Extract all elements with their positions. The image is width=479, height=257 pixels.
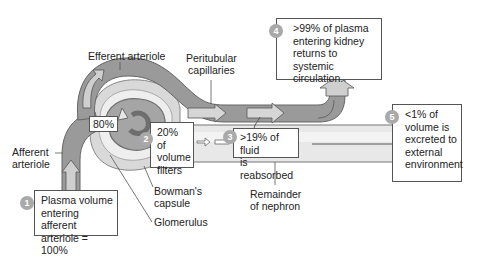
step-1-box: Plasma volume entering afferent arteriol…	[34, 190, 118, 236]
step-line: filters	[157, 164, 189, 177]
label-line: Remainder	[250, 188, 301, 200]
step-2-badge: 2	[139, 132, 153, 146]
step-line: is reabsorbed	[240, 156, 294, 181]
label-line: capsule	[154, 197, 202, 209]
step-line: 20% of	[157, 126, 189, 151]
step-line: arteriole = 100%	[41, 232, 113, 257]
step-4-box: >99% of plasma entering kidney returns t…	[276, 18, 382, 80]
label-80-percent: 80%	[89, 116, 118, 132]
step-line: >19% of fluid	[240, 131, 294, 156]
step-2-box: 20% of volume filters	[150, 122, 194, 168]
step-line: returns to systemic	[293, 47, 377, 72]
label-efferent-arteriole: Efferent arteriole	[88, 50, 165, 62]
step-line: volume	[157, 151, 189, 164]
step-3-badge: 3	[223, 130, 237, 144]
label-line: capillaries	[186, 64, 237, 76]
step-5-box: <1% of volume is excreted to external en…	[392, 104, 462, 182]
step-1-badge: 1	[20, 196, 34, 210]
step-line: environment	[405, 158, 457, 171]
label-line: Bowman's	[154, 185, 202, 197]
label-bowmans-capsule: Bowman's capsule	[154, 185, 202, 209]
step-line: entering kidney	[293, 35, 377, 48]
label-peritubular-capillaries: Peritubular capillaries	[186, 52, 237, 76]
step-line: external	[405, 146, 457, 159]
step-4-badge: 4	[269, 24, 283, 38]
label-glomerulus: Glomerulus	[154, 216, 208, 228]
step-line: excreted to	[405, 133, 457, 146]
step-line: volume is	[405, 121, 457, 134]
step-5-badge: 5	[385, 110, 399, 124]
label-line: of nephron	[250, 200, 301, 212]
label-line: Peritubular	[186, 52, 237, 64]
step-line: Plasma volume	[41, 194, 113, 207]
step-line: circulation.	[293, 72, 377, 85]
step-line: <1% of	[405, 108, 457, 121]
step-3-box: >19% of fluid is reabsorbed	[233, 128, 299, 158]
label-afferent-arteriole: Afferent arteriole	[12, 146, 50, 170]
label-line: Afferent	[12, 146, 50, 158]
label-remainder-of-nephron: Remainder of nephron	[250, 188, 301, 212]
step-line: entering afferent	[41, 207, 113, 232]
label-line: arteriole	[12, 158, 50, 170]
step-line: >99% of plasma	[293, 22, 377, 35]
